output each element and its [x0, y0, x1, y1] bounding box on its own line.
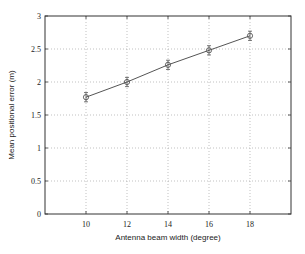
y-tick-label: 2.5: [31, 45, 41, 54]
y-tick-label: 3: [37, 12, 41, 21]
x-tick-label: 10: [82, 220, 90, 229]
x-tick-label: 12: [123, 220, 131, 229]
x-tick-label: 14: [164, 220, 172, 229]
x-tick-label: 16: [205, 220, 213, 229]
grid-lines: [45, 16, 291, 214]
y-axis-ticks: 00.511.522.53: [31, 12, 291, 219]
x-axis-label: Antenna beam width (degree): [115, 233, 221, 242]
y-tick-label: 2: [37, 78, 41, 87]
chart: 00.511.522.53 1012141618 Antenna beam wi…: [0, 0, 305, 254]
y-tick-label: 1.5: [31, 111, 41, 120]
x-axis-ticks: 1012141618: [82, 16, 254, 229]
y-tick-label: 0: [37, 210, 41, 219]
x-tick-label: 18: [246, 220, 254, 229]
y-axis-label: Mean positional error (m): [7, 70, 16, 160]
y-tick-label: 1: [37, 144, 41, 153]
y-tick-label: 0.5: [31, 177, 41, 186]
